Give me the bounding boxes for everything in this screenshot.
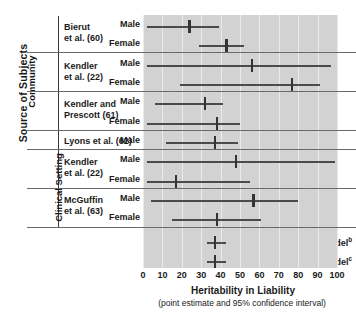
confidence-interval-line [180,84,320,86]
confidence-interval-line [199,45,244,47]
confidence-interval-line [147,123,240,125]
sex-label-male: Male [120,135,140,145]
study-label-line1: Kendler [64,61,103,72]
study-label-line2: et al. (22) [64,168,103,179]
row-separator [27,130,356,131]
x-tick-label-90: 90 [313,270,323,280]
x-tick-label-50: 50 [235,270,245,280]
study-label-kendler-clinical: Kendler et al. (22) [64,157,103,178]
point-estimate-marker [291,78,293,91]
point-estimate-marker [214,255,216,268]
row-separator [27,188,356,189]
study-label-line1: Kendler [64,157,103,168]
sex-label-female: Female [109,212,140,222]
point-estimate-marker [204,97,206,110]
confidence-interval-line [207,242,226,244]
confidence-interval-line [147,26,219,28]
study-label-line2: et al. (60) [64,33,103,44]
x-tick-label-70: 70 [274,270,284,280]
x-axis-ticks: 0102030405060708090100 [143,270,343,282]
point-estimate-marker [188,20,190,33]
sex-label-female: Female [109,38,140,48]
study-label-line1: Bierut [64,22,103,33]
row-separator [27,149,356,150]
confidence-interval-line [151,200,298,202]
footnote-marker-c: c [348,255,352,262]
x-tick-label-100: 100 [329,270,344,280]
x-axis-title: Heritability in Liability [143,285,343,296]
sex-label-male: Male [120,154,140,164]
confidence-interval-line [147,65,331,67]
study-label-line1: McGuffin [64,195,103,206]
sex-label-male: Male [120,96,140,106]
row-separator [27,91,356,92]
study-label-line2: et al. (22) [64,72,103,83]
row-separator [27,227,356,228]
confidence-interval-line [166,142,238,144]
sex-label-female: Female [109,77,140,87]
sex-label-male: Male [120,193,140,203]
group-label-community: Community [26,48,37,116]
forest-plot-figure: Source of Subjects Community Clinical Se… [0,0,356,322]
sex-label-female: Female [109,174,140,184]
x-tick-label-20: 20 [177,270,187,280]
point-estimate-marker [214,136,216,149]
point-estimate-marker [214,236,216,249]
point-estimate-marker [252,194,254,207]
point-estimate-marker [235,155,237,168]
x-tick-label-40: 40 [216,270,226,280]
sex-label-male: Male [120,19,140,29]
x-tick-label-0: 0 [140,270,145,280]
study-label-line2: et al. (63) [64,206,103,217]
confidence-interval-line [147,161,335,163]
x-tick-label-30: 30 [196,270,206,280]
footnote-marker-b: b [348,236,352,243]
point-estimate-marker [251,59,253,72]
point-estimate-marker [216,213,218,226]
point-estimate-marker [225,39,227,52]
confidence-interval-line [155,103,223,105]
confidence-interval-line [207,261,226,263]
sex-label-male: Male [120,58,140,68]
x-tick-label-80: 80 [293,270,303,280]
point-estimate-marker [175,175,177,188]
row-separator [27,52,356,53]
study-label-line1: Kendler and [64,99,119,110]
x-tick-label-60: 60 [254,270,264,280]
confidence-interval-line [147,181,250,183]
x-axis-subtitle: (point estimate and 95% confidence inter… [128,298,356,308]
point-estimate-marker [216,117,218,130]
study-label-bierut: Bierut et al. (60) [64,22,103,43]
x-tick-label-10: 10 [157,270,167,280]
study-label-kendler-community: Kendler et al. (22) [64,61,103,82]
sex-label-female: Female [109,116,140,126]
study-label-mcguffin: McGuffin et al. (63) [64,195,103,216]
